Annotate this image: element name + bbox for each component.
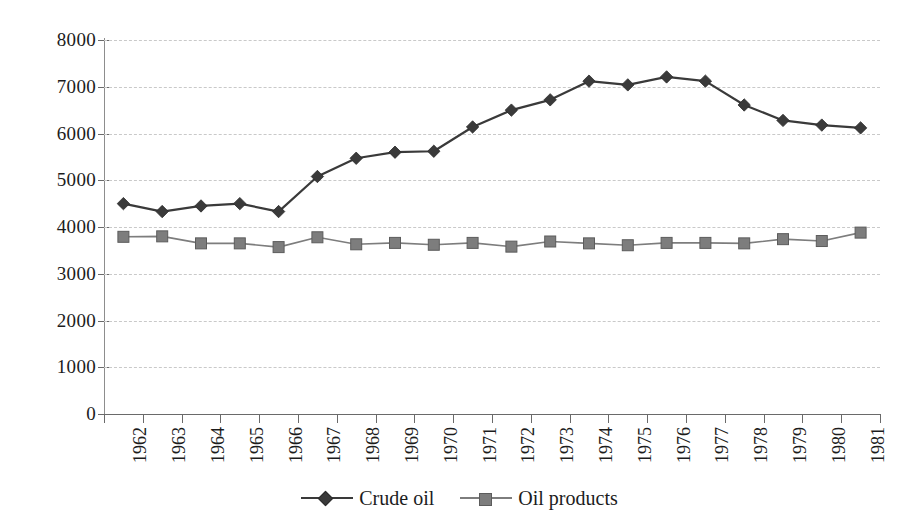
data-point [700, 237, 711, 248]
x-axis-tick [453, 414, 454, 423]
plot-area [104, 40, 880, 414]
y-axis-tick-label: 2000 [4, 311, 96, 330]
y-axis-tick-label: 1000 [4, 357, 96, 376]
data-point [855, 227, 866, 238]
data-point [196, 238, 207, 249]
legend-key-diamond-icon [301, 490, 353, 506]
y-axis-tick-label: 4000 [4, 217, 96, 236]
data-point [157, 231, 168, 242]
legend-label-oil-products: Oil products [518, 487, 617, 509]
x-axis-tick-label: 1968 [364, 427, 382, 463]
line-chart: 010002000300040005000600070008000 196219… [0, 0, 919, 531]
x-axis-tick [220, 414, 221, 423]
data-point [428, 239, 439, 250]
x-axis-tick-label: 1980 [830, 427, 848, 463]
x-axis-tick-label: 1974 [597, 427, 615, 463]
data-point [234, 197, 246, 209]
x-axis-tick-label: 1973 [558, 427, 576, 463]
x-axis-tick [104, 414, 105, 423]
x-axis-tick-label: 1977 [713, 427, 731, 463]
data-point [505, 104, 517, 116]
legend-label-crude-oil: Crude oil [359, 487, 434, 509]
series-oil-products [118, 227, 866, 252]
x-axis-tick-label: 1976 [675, 427, 693, 463]
data-point [816, 236, 827, 247]
x-axis-tick-label: 1971 [481, 427, 499, 463]
data-point [584, 238, 595, 249]
x-axis-tick [182, 414, 183, 423]
x-axis-tick-label: 1963 [170, 427, 188, 463]
data-point [156, 205, 168, 217]
x-axis-tick-label: 1965 [248, 427, 266, 463]
data-point [583, 75, 595, 87]
y-axis-tick-label: 7000 [4, 77, 96, 96]
data-point [351, 239, 362, 250]
x-axis-tick [492, 414, 493, 423]
x-axis-tick-label: 1964 [209, 427, 227, 463]
x-axis-tick-label: 1970 [442, 427, 460, 463]
x-axis-tick-label: 1966 [287, 427, 305, 463]
data-point [195, 200, 207, 212]
x-axis-tick [531, 414, 532, 423]
data-point [778, 234, 789, 245]
y-axis-tick-label: 5000 [4, 170, 96, 189]
x-axis-tick [686, 414, 687, 423]
x-axis-tick-label: 1972 [519, 427, 537, 463]
data-point [118, 231, 129, 242]
x-axis-tick [376, 414, 377, 423]
legend-key-square-icon [460, 490, 512, 506]
x-axis-tick [298, 414, 299, 423]
x-axis-tick-label: 1962 [131, 427, 149, 463]
data-point [506, 241, 517, 252]
x-axis-tick-label: 1969 [403, 427, 421, 463]
x-axis-tick [841, 414, 842, 423]
data-point [312, 232, 323, 243]
chart-legend: Crude oil Oil products [0, 487, 919, 509]
data-point [390, 237, 401, 248]
data-point [816, 119, 828, 131]
x-axis-tick-label: 1975 [636, 427, 654, 463]
x-axis-tick [880, 414, 881, 423]
y-axis-tick-label: 8000 [4, 30, 96, 49]
data-point [622, 79, 634, 91]
legend-item-oil-products: Oil products [460, 487, 617, 509]
y-axis-tick-label: 0 [4, 404, 96, 423]
x-axis-tick [259, 414, 260, 423]
x-axis-tick [608, 414, 609, 423]
data-point [466, 121, 478, 133]
x-axis-tick-label: 1981 [869, 427, 887, 463]
x-axis-tick [725, 414, 726, 423]
data-point [428, 145, 440, 157]
x-axis-tick [764, 414, 765, 423]
x-axis-tick [802, 414, 803, 423]
series-crude-oil [117, 71, 867, 218]
series-line [123, 77, 860, 212]
x-axis-tick-label: 1978 [752, 427, 770, 463]
x-axis-tick [570, 414, 571, 423]
data-point [660, 71, 672, 83]
legend-item-crude-oil: Crude oil [301, 487, 434, 509]
data-point [739, 238, 750, 249]
data-point [545, 236, 556, 247]
data-point [273, 242, 284, 253]
data-point [544, 94, 556, 106]
data-point [389, 146, 401, 158]
x-axis-tick-label: 1967 [325, 427, 343, 463]
data-point [622, 240, 633, 251]
data-point [854, 122, 866, 134]
x-axis-tick [414, 414, 415, 423]
data-point [350, 152, 362, 164]
x-axis-tick [143, 414, 144, 423]
series-container [104, 40, 880, 414]
data-point [117, 197, 129, 209]
data-point [467, 237, 478, 248]
data-point [661, 237, 672, 248]
x-axis-tick-label: 1979 [791, 427, 809, 463]
x-axis-tick [647, 414, 648, 423]
data-point [738, 99, 750, 111]
x-axis-tick [337, 414, 338, 423]
y-axis-tick-label: 6000 [4, 124, 96, 143]
data-point [699, 75, 711, 87]
y-axis-labels: 010002000300040005000600070008000 [0, 0, 96, 531]
data-point [777, 114, 789, 126]
